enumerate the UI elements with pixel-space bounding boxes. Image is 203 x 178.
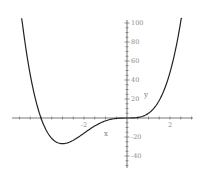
x-tick-label: -2 [81,121,87,129]
function-curve [22,18,182,143]
x-tick-labels: -22 [81,121,172,129]
y-tick-label: 80 [131,38,139,46]
y-axis-label: y [143,91,148,99]
function-plot: -22 10080604020-20-40 x y [0,0,203,178]
x-tick-label: 2 [168,121,172,129]
y-tick-label: 20 [131,95,139,103]
y-tick-label: -40 [131,152,141,160]
y-tick-label: -20 [131,133,141,141]
x-axis-label: x [104,130,108,138]
y-tick-labels: 10080604020-20-40 [131,19,143,160]
y-tick-label: 40 [131,76,139,84]
y-tick-label: 60 [131,57,139,65]
y-tick-label: 100 [131,19,143,27]
